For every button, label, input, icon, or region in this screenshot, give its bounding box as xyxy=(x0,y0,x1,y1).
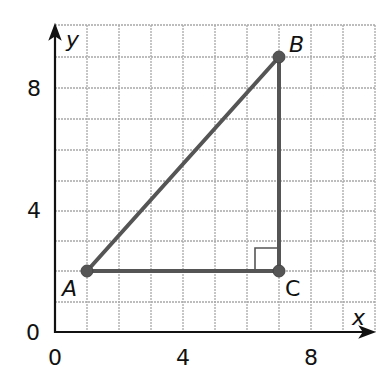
y-axis-arrow-icon xyxy=(51,26,60,38)
y-axis-label: y xyxy=(65,27,80,52)
x-tick-4: 4 xyxy=(176,345,190,370)
x-tick-8: 8 xyxy=(304,345,318,370)
x-tick-0: 0 xyxy=(48,345,62,370)
point-a xyxy=(81,265,93,277)
point-b xyxy=(273,51,285,63)
point-c-label: C xyxy=(285,276,300,301)
y-tick-8: 8 xyxy=(27,76,41,101)
grid xyxy=(55,25,375,332)
point-c xyxy=(273,265,285,277)
x-axis-label: x xyxy=(351,305,366,330)
point-a-label: A xyxy=(60,276,77,301)
y-tick-0: 0 xyxy=(26,320,40,345)
point-b-label: B xyxy=(289,32,304,57)
y-tick-4: 4 xyxy=(27,198,41,223)
coordinate-plane: y x B A C 8 4 0 0 4 8 xyxy=(0,0,391,387)
